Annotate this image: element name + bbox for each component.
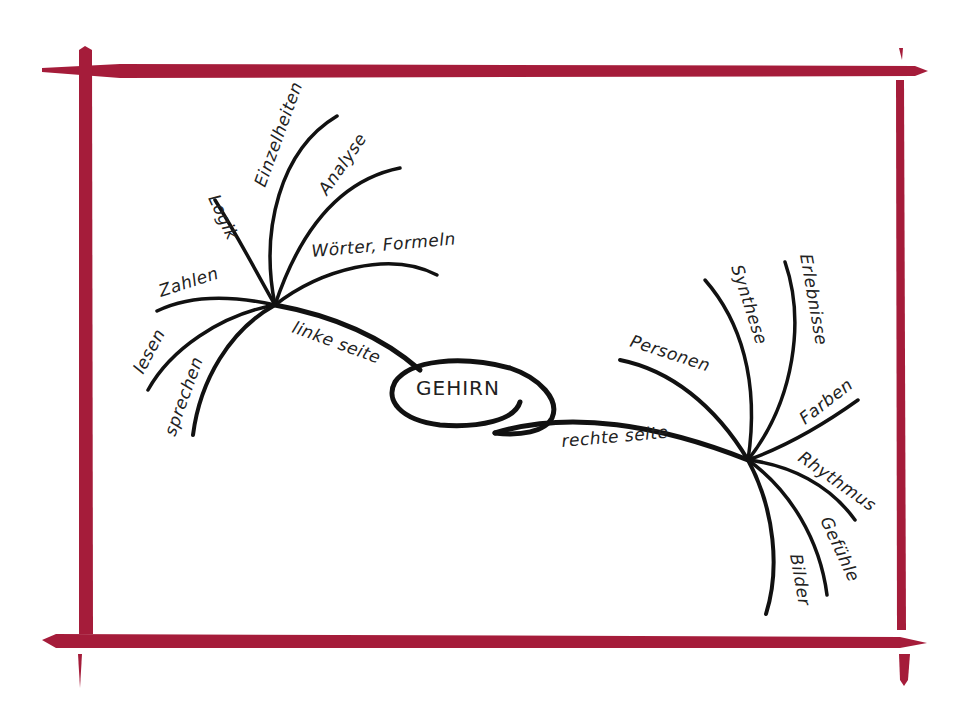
frame-left-tail — [78, 654, 82, 688]
label-erlebnisse: Erlebnisse — [796, 252, 832, 346]
branch-woerter — [275, 264, 437, 305]
branch-personen — [620, 360, 748, 460]
frame-right-stroke — [896, 80, 906, 630]
label-woerter-formeln: Wörter, Formeln — [311, 228, 457, 261]
label-zahlen: Zahlen — [155, 263, 221, 301]
frame-left-stroke — [79, 46, 93, 634]
left-cluster: Logik Einzelheiten Analyse Wörter, Forme… — [129, 79, 457, 438]
branch-bilder — [748, 460, 774, 614]
center-label: GEHIRN — [416, 376, 500, 400]
label-rechte-seite: rechte seite — [561, 422, 670, 451]
label-linke-seite: linke seite — [290, 317, 384, 367]
label-personen: Personen — [628, 331, 713, 376]
frame-top-stroke — [42, 64, 928, 78]
frame-bottom-stroke — [42, 634, 927, 648]
label-bilder: Bilder — [786, 552, 815, 608]
label-synthese: Synthese — [727, 262, 772, 347]
label-rhythmus: Rhythmus — [795, 447, 880, 515]
frame-right-tail — [899, 654, 910, 686]
label-einzelheiten: Einzelheiten — [250, 79, 306, 189]
mind-map-canvas: Logik Einzelheiten Analyse Wörter, Forme… — [0, 0, 967, 709]
right-cluster: Personen Synthese Erlebnisse Farben Rhyt… — [495, 252, 880, 614]
label-analyse: Analyse — [313, 129, 370, 199]
branch-sprechen — [193, 305, 275, 435]
label-logik: Logik — [204, 191, 243, 243]
frame-right-top-tick — [899, 48, 903, 60]
branch-gefuehle — [748, 460, 827, 595]
